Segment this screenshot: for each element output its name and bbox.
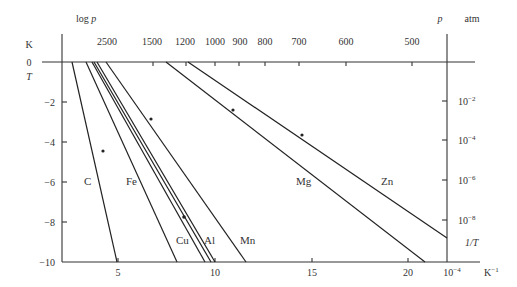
x-tick-label: 5 (116, 267, 121, 278)
top-tick-label: 800 (258, 36, 273, 47)
top-unit-label: atm (465, 13, 480, 24)
y-tick-label: −10 (39, 257, 55, 268)
right-tick-label: 10−6 (458, 174, 476, 186)
series-label-mg: Mg (296, 175, 312, 187)
data-point-marker (149, 117, 152, 120)
data-point-marker (182, 215, 186, 219)
y-zero-label: 0 (27, 57, 32, 68)
top-axis-label: log p (76, 13, 96, 24)
right-tick-label: 10−4 (458, 134, 476, 146)
y-tick-label: −6 (44, 177, 55, 188)
series-label-fe: Fe (126, 175, 137, 187)
vapor-pressure-chart: −2 −4 −6 −8 −10 K 0 T log p 2500 1500 12… (0, 0, 517, 287)
x-tick-label: 10 (210, 267, 220, 278)
data-point-marker (300, 133, 303, 136)
x-axis-label: 1/T (465, 237, 480, 248)
series-line-fe (86, 62, 177, 262)
series-line-mg (166, 62, 425, 262)
top-tick-label: 900 (233, 36, 248, 47)
series-line-al-b (97, 62, 215, 262)
top-tick-label: 1000 (205, 36, 225, 47)
x-unit-label: K−1 (484, 266, 499, 278)
series-label-mn: Mn (240, 234, 256, 246)
x-scale-label: 10−4 (443, 266, 461, 278)
left-ticks (62, 102, 67, 222)
top-tick-label: 2500 (97, 36, 117, 47)
data-point-marker (231, 108, 234, 111)
bottom-ticks (118, 258, 408, 262)
y-axis-label: T (26, 71, 33, 82)
right-ticks (442, 101, 447, 220)
top-tick-label: 1200 (175, 36, 195, 47)
series-line-mn (106, 62, 246, 262)
series-line-al-a (94, 62, 211, 262)
y-unit-label: K (25, 39, 33, 50)
top-tick-label: 600 (339, 36, 354, 47)
series-label-c: C (84, 175, 91, 187)
x-tick-label: 20 (403, 267, 413, 278)
series-label-cu: Cu (176, 234, 189, 246)
series-line-zn (188, 62, 447, 238)
series-line-cu (92, 62, 205, 262)
y-tick-label: −4 (44, 137, 55, 148)
right-tick-label: 10−8 (458, 214, 476, 226)
series-label-al: Al (204, 234, 215, 246)
x-tick-label: 15 (307, 267, 317, 278)
series-line-c (72, 62, 117, 262)
y-tick-label: −2 (44, 97, 55, 108)
data-point-marker (101, 149, 104, 152)
right-axis-label: p (437, 13, 443, 24)
right-tick-label: 10−2 (458, 95, 476, 107)
top-tick-label: 700 (292, 36, 307, 47)
series-label-zn: Zn (381, 175, 394, 187)
y-tick-label: −8 (44, 217, 55, 228)
top-tick-label: 1500 (142, 36, 162, 47)
top-tick-label: 500 (405, 36, 420, 47)
